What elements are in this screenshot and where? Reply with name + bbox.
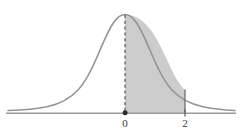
x-tick-label-0: 0 [115, 118, 135, 129]
x-tick-label-2: 2 [175, 118, 195, 129]
origin-tick-mark [123, 110, 128, 115]
bell-curve-outline [8, 15, 235, 111]
shaded-area-0-to-2 [125, 15, 185, 114]
normal-distribution-figure: 0 2 [0, 0, 241, 139]
